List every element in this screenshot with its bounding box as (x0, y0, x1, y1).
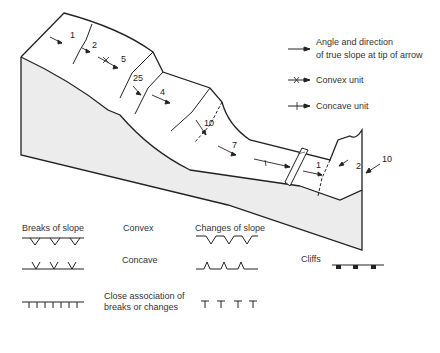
convex-label: Convex (123, 223, 154, 234)
close-association-line1: Close association of (104, 291, 185, 302)
slope-label: 10 (204, 118, 214, 128)
slope-label: 2 (92, 40, 97, 50)
legend-convex-unit: Convex unit (316, 75, 364, 86)
slope-label: 4 (160, 87, 165, 97)
changes-of-slope-header: Changes of slope (195, 223, 265, 234)
cliffs-label: Cliffs (301, 254, 321, 265)
slope-label: 1 (316, 160, 321, 170)
concave-label: Concave (122, 255, 158, 266)
slope-label: 7 (232, 140, 237, 150)
legend-arrow-line2: of true slope at tip of arrow (316, 50, 423, 61)
legend-arrow-line1: Angle and direction (316, 37, 393, 48)
slope-label: 5 (121, 54, 126, 64)
legend-concave-unit: Concave unit (316, 101, 369, 112)
slope-label: 2 (356, 161, 361, 171)
slope-label: 1 (70, 30, 75, 40)
slope-label: 25 (133, 73, 143, 83)
close-association-line2: breaks or changes (104, 302, 178, 313)
breaks-of-slope-header: Breaks of slope (22, 223, 84, 234)
slope-label: 10 (382, 154, 392, 164)
